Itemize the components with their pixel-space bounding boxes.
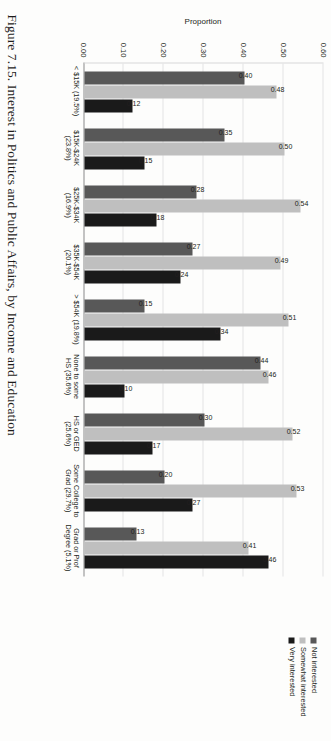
legend-item[interactable]: Somewhat interested <box>298 637 306 716</box>
bar-slot: 0.52 <box>84 427 323 440</box>
x-axis-category-label: Some College to Grad (29.7%) <box>42 462 82 519</box>
bar-slot: 0.41 <box>84 541 323 554</box>
bar[interactable]: 0.49 <box>84 256 280 269</box>
bar-slot: 0.46 <box>84 370 323 383</box>
bar[interactable]: 0.34 <box>84 327 220 340</box>
x-axis-category-labels: < $15K (19.5%)$15K-$24K (23.8%)$25K-$34K… <box>42 62 82 576</box>
bar[interactable]: 0.46 <box>84 370 268 383</box>
bar[interactable]: 0.12 <box>84 99 132 112</box>
bar-data-label: 0.54 <box>294 199 308 206</box>
bar[interactable]: 0.24 <box>84 270 180 283</box>
bar-data-label: 0.30 <box>198 413 212 420</box>
bar-slot: 0.44 <box>84 356 323 369</box>
legend-item[interactable]: Not interested <box>309 637 317 716</box>
y-axis-tick: 0.60 <box>319 42 328 57</box>
bar[interactable]: 0.18 <box>84 213 156 226</box>
bar[interactable]: 0.44 <box>84 356 260 369</box>
bar-data-label: 0.50 <box>278 142 292 149</box>
x-axis-category-label: < $15K (19.5%) <box>42 62 82 119</box>
bar-slot: 0.27 <box>84 498 323 511</box>
chart-legend: Not interestedSomewhat interestedVery in… <box>287 637 317 716</box>
y-axis-tick-labels: 0.600.500.400.300.200.100.00 <box>83 30 323 60</box>
bar[interactable]: 0.15 <box>84 156 144 169</box>
x-axis-category-label: > $54K (19.8%) <box>42 290 82 347</box>
plot-area-wrapper: Proportion 0.600.500.400.300.200.100.00 … <box>65 16 323 576</box>
bar[interactable]: 0.51 <box>84 313 288 326</box>
y-axis-tick: 0.00 <box>79 42 88 57</box>
bar[interactable]: 0.30 <box>84 413 204 426</box>
bar-slot: 0.53 <box>84 484 323 497</box>
bar[interactable]: 0.54 <box>84 199 300 212</box>
y-axis-tick: 0.40 <box>239 42 248 57</box>
bar-slot: 0.34 <box>84 327 323 340</box>
bar-data-label: 0.13 <box>130 527 144 534</box>
bar-group: 0.400.480.12 <box>84 63 323 120</box>
bar-slot: 0.15 <box>84 156 323 169</box>
bar-data-label: 0.27 <box>186 498 200 505</box>
legend-swatch-icon <box>299 637 305 643</box>
bar[interactable]: 0.13 <box>84 527 136 540</box>
bar[interactable]: 0.10 <box>84 384 124 397</box>
bar-data-label: 0.18 <box>150 213 164 220</box>
bar[interactable]: 0.46 <box>84 555 268 568</box>
bar-slot: 0.17 <box>84 441 323 454</box>
bar-slot: 0.20 <box>84 470 323 483</box>
bar[interactable]: 0.48 <box>84 85 276 98</box>
legend-item-label: Not interested <box>309 647 317 693</box>
bar-slot: 0.35 <box>84 128 323 141</box>
legend-item[interactable]: Very interested <box>287 637 295 716</box>
bar[interactable]: 0.35 <box>84 128 224 141</box>
bar[interactable]: 0.41 <box>84 541 248 554</box>
bar[interactable]: 0.50 <box>84 142 284 155</box>
bar[interactable]: 0.20 <box>84 470 164 483</box>
bar-group: 0.270.490.24 <box>84 234 323 291</box>
bar-slot: 0.50 <box>84 142 323 155</box>
bar-groups: 0.400.480.120.350.500.150.280.540.180.27… <box>84 63 323 576</box>
x-axis-category-label: HS or GED (25.6%) <box>42 405 82 462</box>
bar-slot: 0.30 <box>84 413 323 426</box>
bar-data-label: 0.12 <box>126 99 140 106</box>
bar[interactable]: 0.15 <box>84 299 144 312</box>
bar-data-label: 0.10 <box>118 384 132 391</box>
bar-slot: 0.51 <box>84 313 323 326</box>
y-axis-tick: 0.30 <box>199 42 208 57</box>
bar-group: 0.150.510.34 <box>84 291 323 348</box>
bar[interactable]: 0.53 <box>84 484 296 497</box>
legend-item-label: Somewhat interested <box>298 647 306 716</box>
bar-group: 0.130.410.46 <box>84 519 323 576</box>
bar[interactable]: 0.17 <box>84 441 152 454</box>
bar-data-label: 0.35 <box>218 128 232 135</box>
x-axis-category-label: Grad or Prof Degree (5.1%) <box>42 519 82 576</box>
figure-caption: Figure 7.15. Interest in Politics and Pu… <box>4 14 19 726</box>
bar-data-label: 0.15 <box>138 156 152 163</box>
bar-slot: 0.15 <box>84 299 323 312</box>
bar-slot: 0.18 <box>84 213 323 226</box>
bar[interactable]: 0.27 <box>84 242 192 255</box>
bar-data-label: 0.51 <box>282 313 296 320</box>
legend-item-label: Very interested <box>287 647 295 696</box>
bar-data-label: 0.46 <box>262 555 276 562</box>
x-axis-category-label: $15K-$24K (23.8%) <box>42 119 82 176</box>
bar-slot: 0.27 <box>84 242 323 255</box>
bar-group: 0.440.460.10 <box>84 348 323 405</box>
bar-slot: 0.49 <box>84 256 323 269</box>
bar-data-label: 0.49 <box>274 256 288 263</box>
bar-data-label: 0.44 <box>254 356 268 363</box>
figure: Not interestedSomewhat interestedVery in… <box>0 0 331 741</box>
bar[interactable]: 0.28 <box>84 185 196 198</box>
bar-data-label: 0.48 <box>270 85 284 92</box>
rotated-figure-wrapper: Not interestedSomewhat interestedVery in… <box>0 0 331 741</box>
y-axis-tick: 0.50 <box>279 42 288 57</box>
bar[interactable]: 0.40 <box>84 71 244 84</box>
legend-swatch-icon <box>288 637 294 643</box>
book-page: Not interestedSomewhat interestedVery in… <box>0 0 331 741</box>
plot-area: 0.400.480.120.350.500.150.280.540.180.27… <box>83 62 323 576</box>
bar-group: 0.200.530.27 <box>84 462 323 519</box>
bar-chart: Not interestedSomewhat interestedVery in… <box>37 16 323 722</box>
bar-group: 0.300.520.17 <box>84 405 323 462</box>
bar-slot: 0.13 <box>84 527 323 540</box>
bar-group: 0.350.500.15 <box>84 120 323 177</box>
y-axis-title: Proportion <box>83 14 323 28</box>
bar[interactable]: 0.27 <box>84 498 192 511</box>
bar[interactable]: 0.52 <box>84 427 292 440</box>
